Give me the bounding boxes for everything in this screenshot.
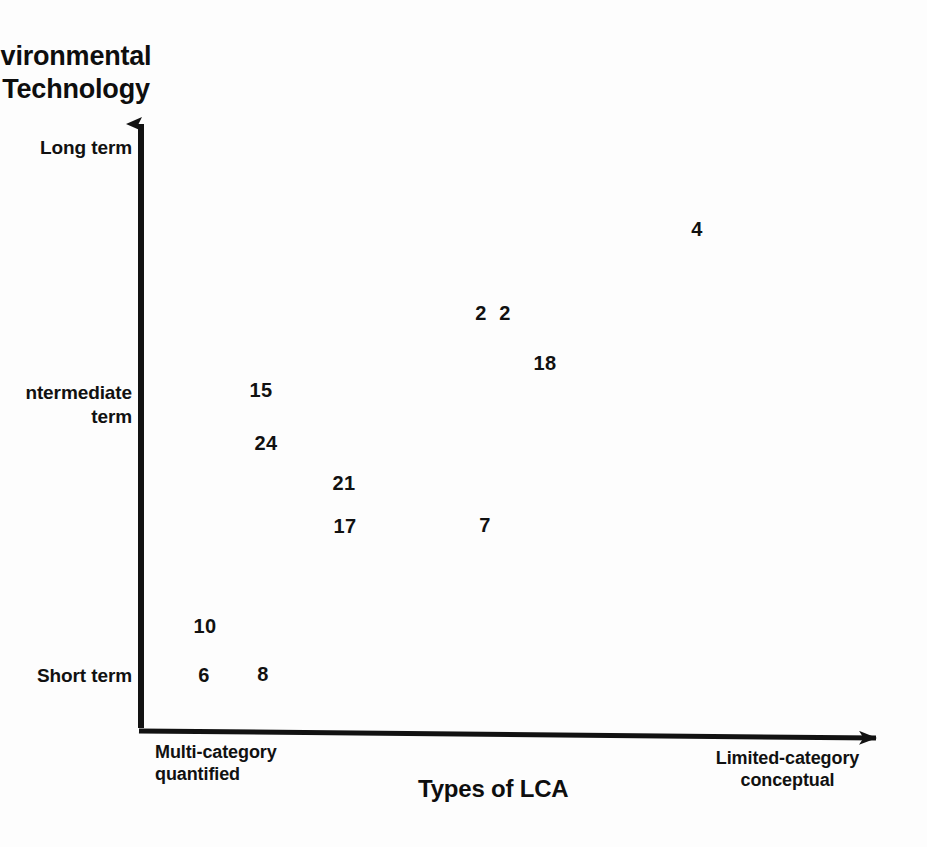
y-tick-long-term: Long term	[40, 136, 132, 160]
data-point-label: 7	[479, 514, 490, 537]
data-point-label: 8	[257, 663, 268, 686]
data-point-label: 24	[255, 432, 278, 455]
y-tick-short-term: Short term	[37, 664, 132, 688]
x-tick-multi-category-quantified: Multi-category quantified	[155, 742, 277, 786]
data-point-label: 2	[475, 302, 486, 325]
data-point-label: 10	[194, 615, 217, 638]
chart-figure: vironmental Technology Long term ntermed…	[0, 0, 927, 847]
data-point-label: 21	[333, 472, 356, 495]
x-axis-title: Types of LCA	[418, 775, 569, 803]
y-tick-intermediate-term: ntermediate term	[25, 381, 132, 429]
axis-lines	[0, 0, 927, 847]
data-point-label: 4	[691, 218, 702, 241]
data-point-label: 15	[250, 379, 273, 402]
data-point-label: 2	[499, 302, 510, 325]
data-point-label: 18	[534, 352, 557, 375]
data-point-label: 17	[334, 515, 357, 538]
y-axis-title: vironmental Technology	[0, 40, 166, 107]
x-tick-limited-category-conceptual: Limited-category conceptual	[700, 748, 875, 792]
data-point-label: 6	[198, 664, 209, 687]
